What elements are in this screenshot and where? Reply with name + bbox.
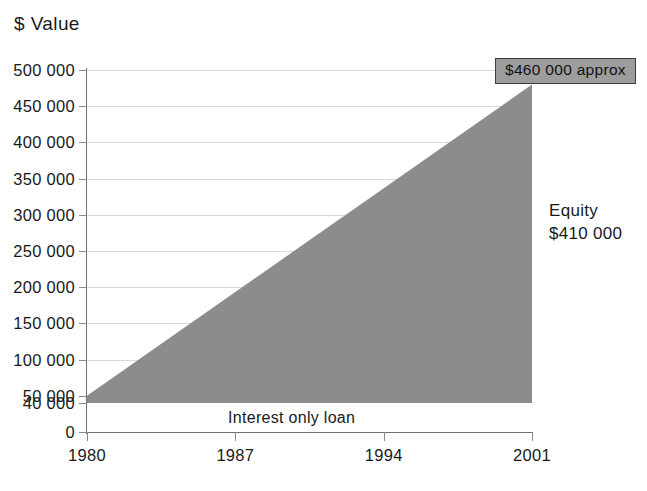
y-axis-tick-label: 40 000 <box>23 394 75 413</box>
equity-label-value: $410 000 <box>549 223 622 246</box>
y-axis-tick-label: 450 000 <box>13 97 75 116</box>
y-axis-tick-label: 100 000 <box>13 350 75 369</box>
y-axis-tick <box>79 323 87 324</box>
y-axis-tick <box>79 360 87 361</box>
y-axis-tick-label: 500 000 <box>13 61 75 80</box>
y-axis-tick <box>79 403 87 404</box>
equity-area-polygon <box>87 85 532 404</box>
x-axis-tick-label: 2001 <box>513 446 551 465</box>
x-axis-tick <box>532 432 533 441</box>
y-axis-title: $ Value <box>14 13 80 35</box>
y-axis-tick <box>79 396 87 397</box>
interest-only-loan-label: Interest only loan <box>228 409 355 427</box>
y-axis-tick <box>79 106 87 107</box>
y-axis-tick-label: 0 <box>66 423 75 442</box>
property-value-callout: $460 000 approx <box>495 58 636 84</box>
equity-growth-area-chart: $ Value $460 000 approx Equity $410 000 … <box>0 0 647 491</box>
y-axis-tick-label: 150 000 <box>13 314 75 333</box>
y-axis-tick <box>79 179 87 180</box>
y-axis-tick <box>79 70 87 71</box>
x-axis-tick-label: 1980 <box>68 446 106 465</box>
y-axis-tick-label: 300 000 <box>13 205 75 224</box>
y-axis-tick <box>79 215 87 216</box>
y-axis-tick <box>79 251 87 252</box>
y-axis-tick <box>79 142 87 143</box>
x-axis-tick-label: 1994 <box>365 446 403 465</box>
equity-label: Equity $410 000 <box>549 200 622 246</box>
y-axis-tick <box>79 287 87 288</box>
y-axis-tick-label: 350 000 <box>13 169 75 188</box>
x-axis-tick-label: 1987 <box>216 446 254 465</box>
y-axis-tick <box>79 432 87 433</box>
y-axis-tick-label: 250 000 <box>13 242 75 261</box>
y-axis-tick-label: 200 000 <box>13 278 75 297</box>
x-axis-tick <box>87 432 88 441</box>
x-axis-tick <box>384 432 385 441</box>
x-axis-tick <box>235 432 236 441</box>
equity-area-series <box>87 70 533 433</box>
equity-label-title: Equity <box>549 200 622 223</box>
y-axis-tick-label: 400 000 <box>13 133 75 152</box>
